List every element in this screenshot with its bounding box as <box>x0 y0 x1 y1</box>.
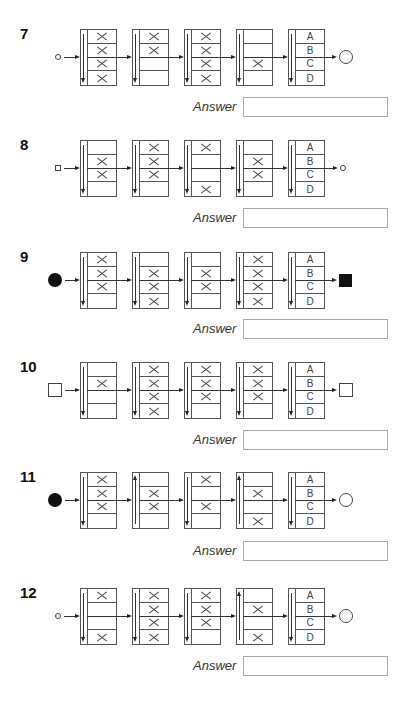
option-cell[interactable]: D <box>296 182 324 196</box>
answer-input[interactable] <box>243 541 388 561</box>
answer-input[interactable] <box>243 430 388 450</box>
option-cell[interactable]: A <box>296 30 324 44</box>
cross-icon <box>253 255 263 263</box>
arrow-shaft <box>239 595 240 640</box>
option-cell[interactable]: B <box>296 267 324 281</box>
answer-label: Answer <box>193 658 236 673</box>
option-cell[interactable]: B <box>296 155 324 169</box>
cross-icon <box>201 619 211 627</box>
arrow-right-icon <box>127 498 132 502</box>
arrow-down-icon <box>237 411 241 416</box>
arrow-shaft <box>83 367 84 412</box>
cross-icon <box>253 633 263 641</box>
option-label: B <box>307 488 314 499</box>
option-cell[interactable]: C <box>296 58 324 72</box>
cross-icon <box>149 503 159 511</box>
arrow-right-icon <box>179 388 184 392</box>
arrow-right-icon <box>283 166 288 170</box>
arrow-right-icon <box>231 55 236 59</box>
grid-cell <box>192 617 220 631</box>
option-cell[interactable]: C <box>296 281 324 295</box>
grid-cell <box>192 169 220 183</box>
cross-icon <box>253 157 263 165</box>
option-cell[interactable]: D <box>296 294 324 308</box>
cross-icon <box>149 297 159 305</box>
grid-cell <box>244 155 272 169</box>
option-cell[interactable]: A <box>296 589 324 603</box>
option-cell[interactable]: B <box>296 377 324 391</box>
cross-icon <box>201 503 211 511</box>
puzzle-9: 9ABCDAnswer <box>0 252 410 352</box>
arrow-right-icon <box>283 278 288 282</box>
option-label: B <box>307 45 314 56</box>
arrow-right-icon <box>179 278 184 282</box>
option-cell[interactable]: D <box>296 630 324 644</box>
option-cell[interactable]: B <box>296 603 324 617</box>
grid-cell <box>140 44 168 58</box>
option-cell[interactable]: A <box>296 141 324 155</box>
grid-cell <box>244 377 272 391</box>
connector-line <box>243 390 284 391</box>
connector-line <box>139 500 180 501</box>
option-cell[interactable]: D <box>296 71 324 85</box>
arrow-shaft <box>291 145 292 190</box>
option-cell[interactable]: D <box>296 404 324 418</box>
option-cell[interactable]: A <box>296 473 324 487</box>
connector-line <box>295 168 334 169</box>
answer-input[interactable] <box>243 208 388 228</box>
answer-input[interactable] <box>243 319 388 339</box>
grid-cell <box>140 363 168 377</box>
answer-input[interactable] <box>243 656 388 676</box>
arrow-shaft <box>291 257 292 302</box>
grid-cell <box>88 377 116 391</box>
connector-line <box>87 616 128 617</box>
grid-cell <box>192 501 220 515</box>
grid-cell <box>192 44 220 58</box>
grid-cell <box>192 514 220 528</box>
option-cell[interactable]: C <box>296 501 324 515</box>
grid-cell <box>88 363 116 377</box>
start-small-square-icon <box>55 165 61 171</box>
grid-cell <box>244 487 272 501</box>
option-label: A <box>307 31 314 42</box>
connector-line <box>243 616 284 617</box>
arrow-down-icon <box>289 637 293 642</box>
cross-icon <box>97 255 107 263</box>
connector-line <box>139 616 180 617</box>
cross-icon <box>201 60 211 68</box>
cross-icon <box>97 60 107 68</box>
cross-icon <box>149 157 159 165</box>
connector-line <box>295 500 333 501</box>
option-label: C <box>306 501 313 512</box>
option-cell[interactable]: C <box>296 391 324 405</box>
option-cell[interactable]: B <box>296 487 324 501</box>
grid-cell <box>192 404 220 418</box>
end-large-circle-icon <box>339 609 353 623</box>
arrow-shaft <box>239 479 240 524</box>
arrow-down-icon <box>133 78 137 83</box>
option-cell[interactable]: C <box>296 617 324 631</box>
cross-icon <box>201 475 211 483</box>
end-small-circle-icon <box>340 165 346 171</box>
arrow-up-icon <box>237 591 241 596</box>
connector-line <box>191 168 232 169</box>
option-cell[interactable]: A <box>296 363 324 377</box>
option-label: C <box>306 281 313 292</box>
cross-icon <box>97 475 107 483</box>
option-cell[interactable]: A <box>296 253 324 267</box>
option-cell[interactable]: B <box>296 44 324 58</box>
arrow-right-icon <box>127 614 132 618</box>
start-small-circle-icon <box>55 613 61 619</box>
grid-cell <box>244 363 272 377</box>
arrow-shaft <box>83 593 84 638</box>
end-large-square-icon <box>339 383 353 397</box>
grid-cell <box>88 58 116 72</box>
grid-cell <box>192 30 220 44</box>
cross-icon <box>149 619 159 627</box>
answer-label: Answer <box>193 432 236 447</box>
option-cell[interactable]: D <box>296 514 324 528</box>
arrow-down-icon <box>185 189 189 194</box>
grid-cell <box>244 294 272 308</box>
option-cell[interactable]: C <box>296 169 324 183</box>
answer-input[interactable] <box>243 97 388 117</box>
